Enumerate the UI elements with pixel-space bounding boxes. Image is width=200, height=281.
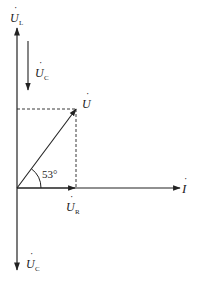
label-u: · U — [82, 88, 92, 111]
svg-text:U: U — [82, 97, 92, 111]
label-uc-bottom: · U C — [26, 248, 40, 273]
svg-text:I: I — [181, 181, 187, 196]
svg-text:C: C — [44, 74, 49, 82]
phasor-diagram: 53° · U L · U C · U · U R · I · U C — [0, 0, 200, 281]
label-i: · I — [181, 173, 187, 196]
label-ul: · U L — [10, 2, 23, 27]
label-ur: · U R — [66, 191, 80, 216]
svg-text:L: L — [19, 19, 23, 27]
angle-label: 53° — [42, 168, 57, 180]
label-uc-top: · U C — [35, 57, 49, 82]
svg-text:C: C — [35, 265, 40, 273]
svg-text:R: R — [75, 208, 80, 216]
angle-arc — [31, 169, 41, 188]
